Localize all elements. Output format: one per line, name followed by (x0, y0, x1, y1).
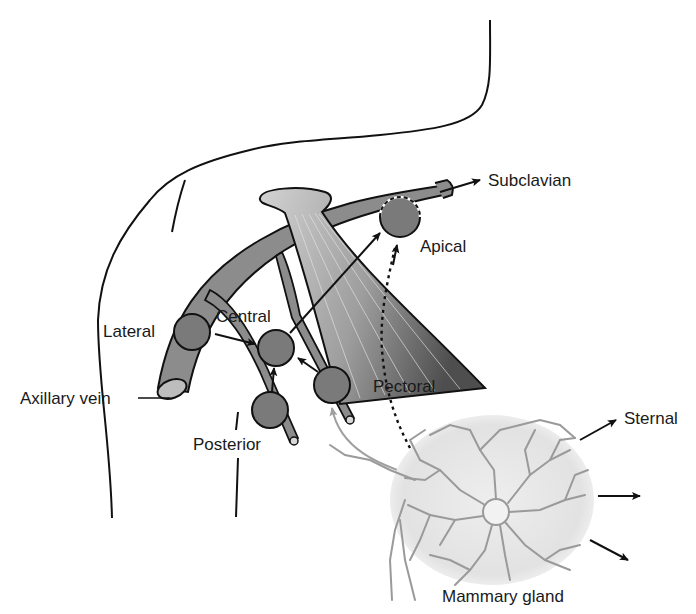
axilla-line (236, 412, 238, 517)
posterior-label: Posterior (193, 435, 261, 454)
lateral-label: Lateral (103, 322, 155, 341)
arrow-to-sternal (580, 420, 616, 440)
mammary-gland-label: Mammary gland (442, 587, 564, 606)
subclavian-label: Subclavian (488, 171, 571, 190)
central-label: Central (216, 307, 271, 326)
branch-vein-2-tip (346, 416, 354, 424)
arrow-inferior (590, 540, 628, 560)
apical-label: Apical (420, 237, 466, 256)
lateral-node (174, 314, 210, 350)
sternal-label: Sternal (624, 409, 678, 428)
axillary-lymph-diagram: Subclavian Apical Lateral Central Axilla… (0, 0, 696, 614)
shoulder-crease (172, 180, 185, 232)
pectoral-label: Pectoral (373, 377, 435, 396)
mammary-gland (330, 415, 594, 600)
pectoral-node (314, 367, 350, 403)
branch-vein-1-tip (290, 437, 298, 445)
axillary-vein-label: Axillary vein (20, 389, 111, 408)
central-node (258, 330, 294, 366)
posterior-node (252, 392, 288, 428)
